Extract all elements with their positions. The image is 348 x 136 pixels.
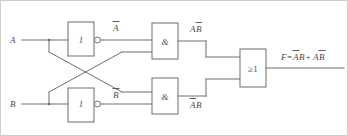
inverter-a-label: 1 (79, 35, 84, 45)
label-not-b: B (113, 90, 119, 100)
inverter-b-label: 1 (79, 99, 84, 109)
output-expression-term2-b: B (319, 52, 325, 62)
and-gate-top-label: & (161, 37, 168, 47)
label-input-b: B (10, 99, 16, 109)
logic-circuit-diagram: 1 A 1 B & A B & (0, 0, 348, 136)
label-and-bottom-output-a: A (189, 100, 196, 110)
circuit-canvas: 1 A 1 B & A B & (0, 0, 348, 136)
output-expression-term1-a: A (292, 52, 299, 62)
label-not-a: A (112, 23, 119, 33)
label-and-top-output-b: B (196, 24, 202, 34)
and-gate-bottom-label: & (161, 92, 168, 102)
inverter-a-bubble-icon (95, 37, 101, 43)
output-expression-term2-a: A (312, 52, 319, 62)
label-input-a: A (9, 35, 16, 45)
output-expression-prefix: F= (280, 52, 293, 62)
output-expression-plus: + (305, 52, 311, 62)
or-gate-label: ≥1 (248, 64, 257, 74)
label-and-bottom-output-b: B (196, 100, 202, 110)
inverter-b-bubble-icon (95, 101, 101, 107)
label-and-top-output-a: A (189, 24, 196, 34)
